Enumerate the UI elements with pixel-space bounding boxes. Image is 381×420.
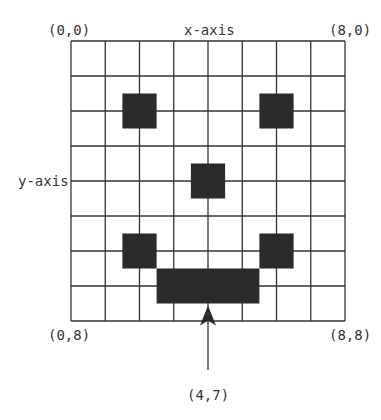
filled-cell-mouth-bar	[157, 269, 260, 304]
coordinate-grid	[0, 0, 381, 420]
filled-cell-right-eye	[259, 94, 293, 129]
filled-cell-right-mouth-corner	[259, 234, 293, 269]
filled-cell-nose	[191, 164, 225, 199]
filled-cell-left-mouth-corner	[122, 234, 156, 269]
filled-cell-left-eye	[122, 94, 156, 129]
